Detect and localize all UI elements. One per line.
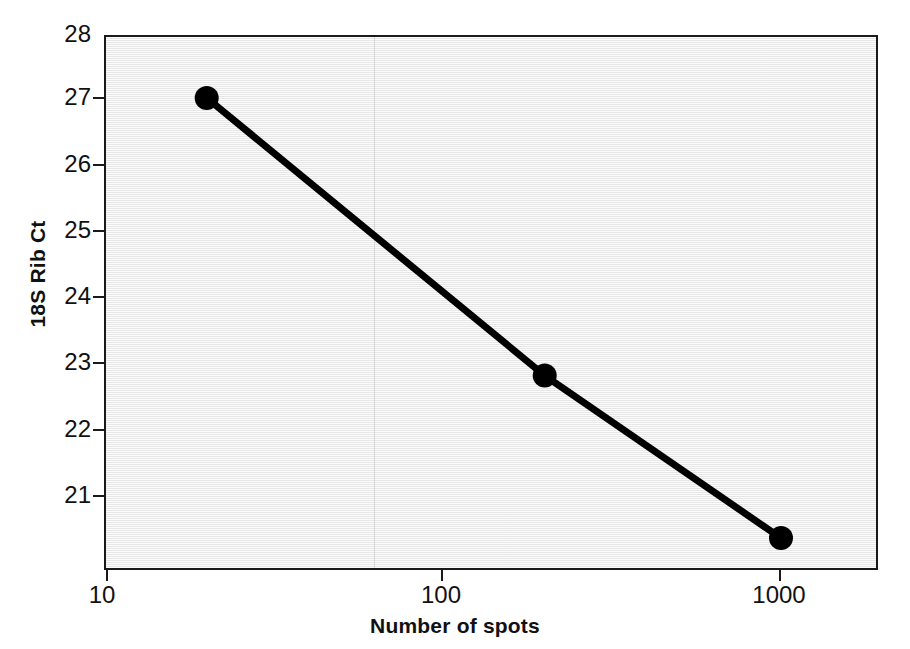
chart-figure: 28 27 26 25 24 23 22 21 10 100 1000 18S … <box>0 0 910 649</box>
y-tick-mark <box>93 296 104 298</box>
data-series-layer <box>106 37 878 570</box>
y-tick-mark <box>93 97 104 99</box>
y-tick-mark <box>93 164 104 166</box>
x-tick-mark <box>779 570 781 581</box>
series-line <box>207 98 781 538</box>
data-point-marker <box>769 526 793 550</box>
y-tick-mark <box>93 429 104 431</box>
y-tick-label: 22 <box>31 417 91 441</box>
x-tick-label: 100 <box>381 583 501 607</box>
y-tick-mark <box>93 230 104 232</box>
y-tick-mark <box>93 362 104 364</box>
x-tick-label: 1000 <box>719 583 839 607</box>
data-point-marker <box>533 364 557 388</box>
y-tick-label: 21 <box>31 483 91 507</box>
y-axis-title: 18S Rib Ct <box>26 164 50 384</box>
x-tick-mark <box>106 570 108 581</box>
y-tick-mark <box>93 495 104 497</box>
x-tick-label: 10 <box>42 583 162 607</box>
plot-area <box>104 35 878 570</box>
data-point-marker <box>195 86 219 110</box>
y-tick-label: 27 <box>31 85 91 109</box>
y-tick-label: 28 <box>31 22 91 46</box>
x-tick-mark <box>441 570 443 581</box>
x-axis-title: Number of spots <box>0 614 910 638</box>
